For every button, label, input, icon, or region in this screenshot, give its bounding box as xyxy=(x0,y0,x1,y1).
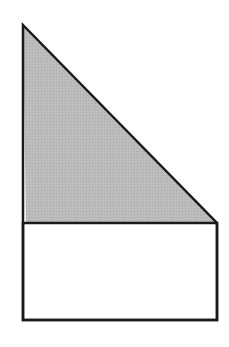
composite-shape-figure xyxy=(0,0,229,347)
unshaded-rectangle xyxy=(23,223,217,320)
diagram-canvas xyxy=(0,0,229,347)
